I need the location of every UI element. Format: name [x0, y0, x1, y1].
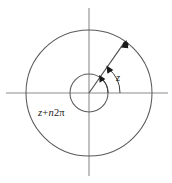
angle-label-z-plus-n2pi: z+n2π	[38, 108, 65, 119]
complex-argument-figure: z z+n2π	[0, 0, 172, 183]
angle-label-z-text: z	[116, 72, 120, 83]
figure-canvas	[0, 0, 172, 183]
label-symbol-pi: π	[59, 107, 65, 118]
angle-label-z: z	[116, 73, 120, 84]
